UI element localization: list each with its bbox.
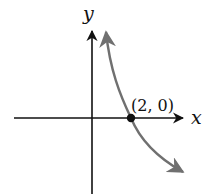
curve-upper — [106, 32, 131, 118]
intercept-point — [127, 114, 135, 122]
x-axis-label: x — [191, 106, 202, 128]
function-graph: y x (2, 0) — [0, 0, 208, 194]
curve-lower — [131, 118, 183, 172]
y-axis-label: y — [82, 2, 94, 24]
point-label: (2, 0) — [131, 96, 174, 115]
